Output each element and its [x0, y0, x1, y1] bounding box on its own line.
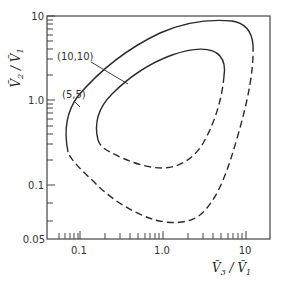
leader-line-5-5 [74, 101, 80, 107]
y-tick-label-0-1: 0.1 [28, 180, 44, 191]
x-tick-label-1: 1.0 [154, 245, 170, 256]
contour-figure: 10 1.0 0.1 0.05 0.1 1.0 10 Ṽ3 / Ṽ1 Ṽ2 / … [0, 0, 282, 284]
label-5-5: (5,5) [62, 89, 86, 100]
y-tick-label-1: 1.0 [28, 95, 44, 106]
label-10-10: (10,10) [57, 51, 94, 62]
y-axis-ticks [47, 16, 55, 221]
x-axis-label: Ṽ3 / Ṽ1 [212, 260, 251, 277]
plot-frame [47, 16, 270, 239]
inner-contour-solid [97, 49, 225, 140]
y-tick-label-10: 10 [31, 11, 44, 22]
y-tick-label-0-05: 0.05 [23, 234, 45, 245]
x-axis-ticks [59, 231, 246, 239]
x-tick-label-0-1: 0.1 [71, 245, 87, 256]
x-tick-label-10: 10 [239, 245, 252, 256]
y-axis-label-group: Ṽ2 / Ṽ1 [8, 48, 25, 87]
outer-contour-solid [66, 20, 253, 152]
y-axis-label: Ṽ2 / Ṽ1 [8, 48, 25, 87]
outer-contour-dashed [68, 45, 253, 223]
